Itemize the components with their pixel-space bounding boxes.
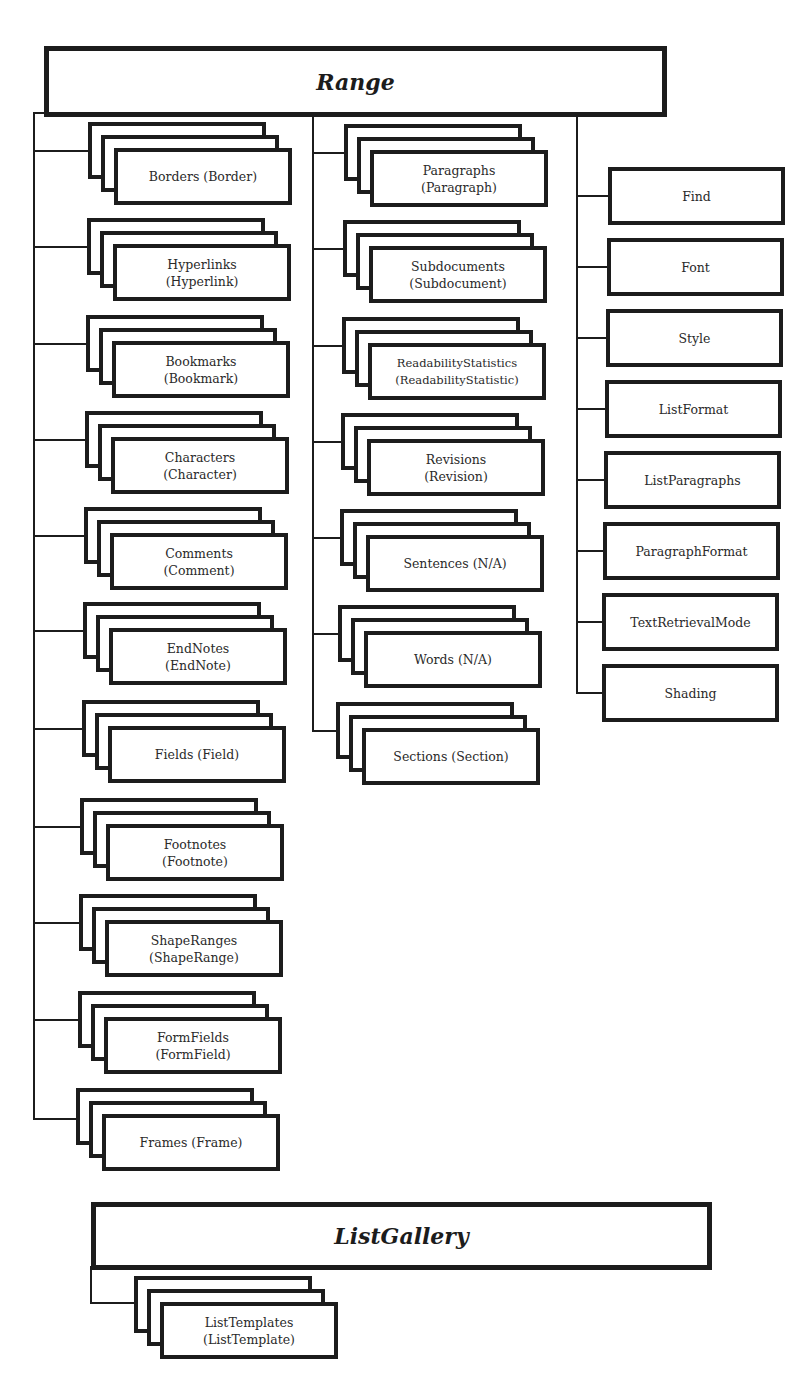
collection-borders[interactable]: Borders (Border): [88, 122, 294, 207]
collection-fields[interactable]: Fields (Field): [82, 700, 288, 785]
collection-label: Footnotes (Footnote): [162, 836, 228, 870]
connector: [34, 343, 90, 345]
connector: [34, 535, 88, 537]
collection-comments[interactable]: Comments (Comment): [84, 507, 290, 592]
object-label: Shading: [664, 686, 716, 701]
collection-subdocuments[interactable]: Subdocuments (Subdocument): [343, 220, 549, 305]
connector: [313, 345, 345, 347]
stack-front: Hyperlinks (Hyperlink): [113, 244, 291, 301]
connector: [90, 1302, 136, 1304]
range-title: Range: [316, 69, 394, 95]
collection-label: Paragraphs (Paragraph): [421, 162, 497, 196]
collection-label: Revisions (Revision): [424, 451, 488, 485]
stack-front: Characters (Character): [111, 437, 289, 494]
stack-front: Words (N/A): [364, 631, 542, 688]
collection-endnotes[interactable]: EndNotes (EndNote): [83, 602, 289, 687]
collection-hyperlinks[interactable]: Hyperlinks (Hyperlink): [87, 218, 293, 303]
collection-label: ReadabilityStatistics (ReadabilityStatis…: [395, 355, 518, 389]
connector: [313, 537, 343, 539]
collection-revisions[interactable]: Revisions (Revision): [341, 413, 547, 498]
object-find[interactable]: Find: [608, 167, 785, 225]
connector: [34, 826, 84, 828]
collection-shaperanges[interactable]: ShapeRanges (ShapeRange): [79, 894, 285, 979]
connector: [577, 479, 605, 481]
collection-label: Subdocuments (Subdocument): [409, 258, 506, 292]
stack-front: Comments (Comment): [110, 533, 288, 590]
collection-frames[interactable]: Frames (Frame): [76, 1088, 282, 1173]
collection-label: Frames (Frame): [140, 1134, 243, 1151]
left-trunk-line: [33, 112, 35, 1120]
connector: [34, 246, 90, 248]
connector: [34, 728, 86, 730]
collection-bookmarks[interactable]: Bookmarks (Bookmark): [86, 315, 292, 400]
object-listparagraphs[interactable]: ListParagraphs: [604, 451, 781, 509]
collection-label: Sentences (N/A): [403, 555, 506, 572]
collection-label: FormFields (FormField): [155, 1029, 230, 1063]
object-shading[interactable]: Shading: [602, 664, 779, 722]
connector: [313, 441, 344, 443]
stack-front: Sentences (N/A): [366, 535, 544, 592]
connector: [33, 1118, 79, 1120]
object-label: Find: [682, 189, 711, 204]
stack-front: Sections (Section): [362, 728, 540, 785]
connector: [313, 152, 347, 154]
connector: [577, 621, 603, 623]
stack-front: FormFields (FormField): [104, 1017, 282, 1074]
object-textretrievalmode[interactable]: TextRetrievalMode: [602, 593, 779, 651]
object-label: Style: [678, 331, 710, 346]
object-label: ParagraphFormat: [635, 544, 747, 559]
stack-front: ReadabilityStatistics (ReadabilityStatis…: [368, 343, 546, 400]
object-font[interactable]: Font: [607, 238, 784, 296]
collection-label: Hyperlinks (Hyperlink): [166, 256, 239, 290]
collection-label: Words (N/A): [414, 651, 492, 668]
collection-words[interactable]: Words (N/A): [338, 605, 544, 690]
collection-label: Sections (Section): [393, 748, 508, 765]
object-label: ListParagraphs: [644, 473, 740, 488]
collection-sections[interactable]: Sections (Section): [336, 702, 542, 787]
object-style[interactable]: Style: [606, 309, 783, 367]
listgallery-title: ListGallery: [334, 1223, 469, 1249]
stack-front: Subdocuments (Subdocument): [369, 246, 547, 303]
collection-formfields[interactable]: FormFields (FormField): [78, 991, 284, 1076]
collection-characters[interactable]: Characters (Character): [85, 411, 291, 496]
object-label: ListFormat: [659, 402, 729, 417]
stack-front: ShapeRanges (ShapeRange): [105, 920, 283, 977]
collection-label: Fields (Field): [155, 746, 239, 763]
collection-label: ShapeRanges (ShapeRange): [149, 932, 239, 966]
collection-listtemplates[interactable]: ListTemplates (ListTemplate): [134, 1276, 340, 1361]
collection-label: Comments (Comment): [163, 545, 234, 579]
collection-label: Characters (Character): [163, 449, 237, 483]
stack-front: ListTemplates (ListTemplate): [160, 1302, 338, 1359]
connector: [34, 630, 88, 632]
range-root-box: Range: [44, 46, 667, 117]
object-label: Font: [681, 260, 710, 275]
connector: [577, 550, 604, 552]
collection-footnotes[interactable]: Footnotes (Footnote): [80, 798, 286, 883]
listgallery-trunk-line: [90, 1266, 92, 1304]
right-trunk-line: [576, 116, 578, 692]
collection-label: EndNotes (EndNote): [165, 640, 231, 674]
object-paragraphformat[interactable]: ParagraphFormat: [603, 522, 780, 580]
stack-front: Paragraphs (Paragraph): [370, 150, 548, 207]
connector: [577, 195, 609, 197]
connector: [34, 150, 90, 152]
connector: [576, 692, 603, 694]
collection-label: Bookmarks (Bookmark): [164, 353, 238, 387]
connector: [34, 922, 82, 924]
stack-front: Frames (Frame): [102, 1114, 280, 1171]
middle-trunk-line: [312, 116, 314, 732]
collection-readabilitystatistics[interactable]: ReadabilityStatistics (ReadabilityStatis…: [342, 317, 548, 402]
stack-front: Fields (Field): [108, 726, 286, 783]
left-trunk-top-link: [33, 112, 47, 114]
stack-front: Footnotes (Footnote): [106, 824, 284, 881]
collection-paragraphs[interactable]: Paragraphs (Paragraph): [344, 124, 550, 209]
collection-sentences[interactable]: Sentences (N/A): [340, 509, 546, 594]
connector: [34, 1019, 80, 1021]
connector: [313, 248, 346, 250]
object-listformat[interactable]: ListFormat: [605, 380, 782, 438]
connector: [34, 439, 90, 441]
stack-front: Revisions (Revision): [367, 439, 545, 496]
object-label: TextRetrievalMode: [630, 615, 750, 630]
stack-front: EndNotes (EndNote): [109, 628, 287, 685]
listgallery-root-box: ListGallery: [91, 1202, 712, 1270]
